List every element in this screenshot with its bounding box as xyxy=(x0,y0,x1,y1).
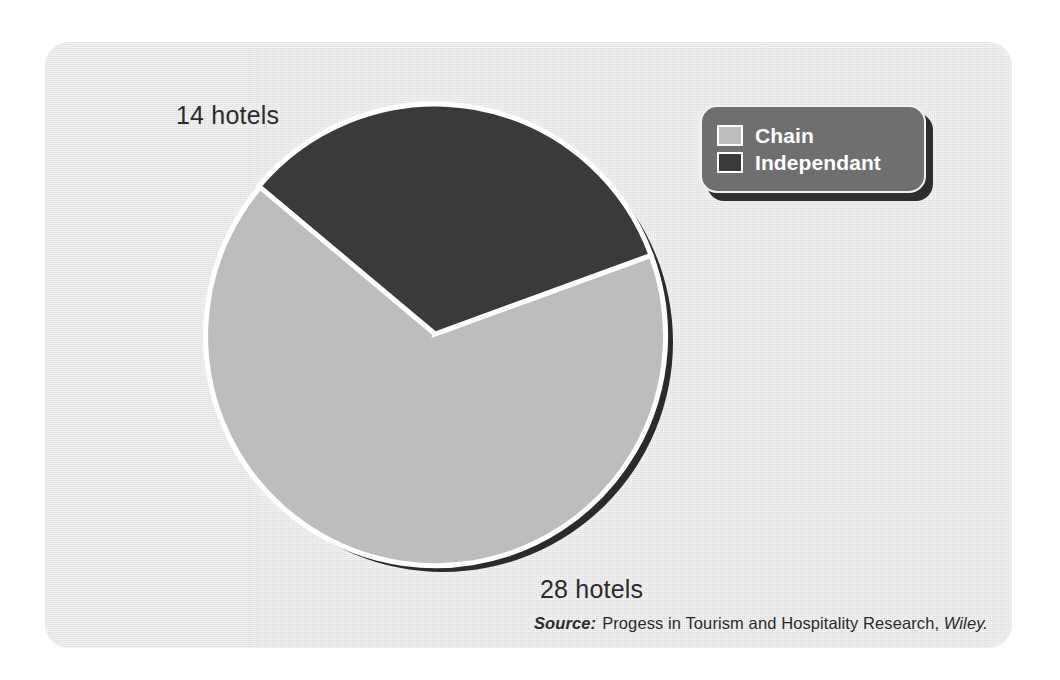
legend-box: Chain Independant xyxy=(700,105,926,193)
legend-swatch-independant-icon xyxy=(717,152,743,173)
pie-chart-figure: 14 hotels 28 hotels Source:Progess in To… xyxy=(0,0,1060,680)
legend-label-independant: Independant xyxy=(755,152,881,173)
source-credit: Source:Progess in Tourism and Hospitalit… xyxy=(534,614,988,633)
pie-chart xyxy=(190,88,690,596)
legend: Chain Independant xyxy=(700,105,926,193)
pie-chart-svg xyxy=(190,88,690,596)
legend-swatch-chain-icon xyxy=(717,125,743,146)
legend-item-independant[interactable]: Independant xyxy=(717,152,924,173)
source-publisher: Wiley. xyxy=(944,614,988,632)
legend-item-chain[interactable]: Chain xyxy=(717,125,924,146)
source-key: Source: xyxy=(534,614,596,632)
legend-label-chain: Chain xyxy=(755,125,814,146)
slice-label-independant: 14 hotels xyxy=(176,101,279,130)
source-text: Progess in Tourism and Hospitality Resea… xyxy=(602,614,939,632)
slice-label-chain: 28 hotels xyxy=(540,575,643,604)
